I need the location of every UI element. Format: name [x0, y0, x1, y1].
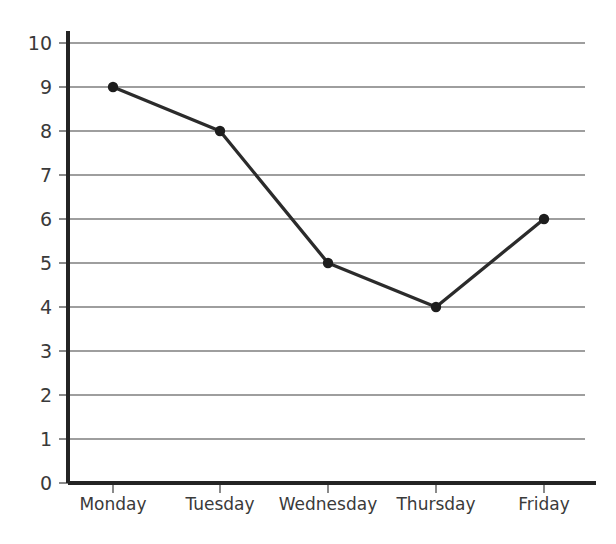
chart-background [0, 0, 616, 544]
line-chart: 012345678910 MondayTuesdayWednesdayThurs… [0, 0, 616, 544]
y-axis-tick-label: 3 [40, 340, 52, 362]
x-axis-tick-label: Thursday [395, 494, 475, 514]
x-axis-tick-label: Friday [518, 494, 570, 514]
y-axis-tick-label: 2 [40, 384, 52, 406]
data-point-marker [108, 82, 118, 92]
y-axis-tick-label: 10 [28, 32, 52, 54]
y-axis-tick-label: 8 [40, 120, 52, 142]
x-axis-tick-label: Monday [79, 494, 146, 514]
x-axis-tick-label: Wednesday [279, 494, 377, 514]
y-axis-tick-label: 6 [40, 208, 52, 230]
y-axis-tick-label: 5 [40, 252, 52, 274]
data-point-marker [323, 258, 333, 268]
data-point-marker [431, 302, 441, 312]
data-point-marker [539, 214, 549, 224]
y-axis-tick-label: 4 [40, 296, 52, 318]
x-axis-tick-label: Tuesday [184, 494, 254, 514]
y-axis-tick-label: 1 [40, 428, 52, 450]
y-axis-tick-label: 0 [40, 472, 52, 494]
y-axis-tick-label: 9 [40, 76, 52, 98]
y-axis-tick-label: 7 [40, 164, 52, 186]
data-point-marker [215, 126, 225, 136]
chart-canvas: 012345678910 MondayTuesdayWednesdayThurs… [0, 0, 616, 544]
